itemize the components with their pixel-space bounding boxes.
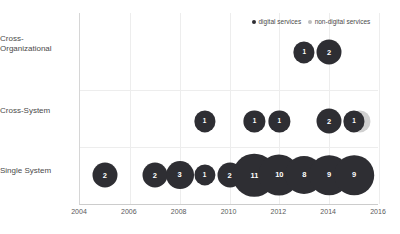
- bubble-digital-2014: 2: [317, 40, 342, 65]
- category-label-single-system: Single System: [0, 166, 78, 176]
- legend-label-nondigital: non-digital services: [315, 18, 371, 25]
- x-tick-2006: 2006: [121, 208, 137, 215]
- x-tick-2004: 2004: [71, 208, 87, 215]
- x-tick-2012: 2012: [271, 208, 287, 215]
- bubble-digital-2005: 2: [92, 163, 117, 188]
- category-label-cross-organizational: Cross- Organizational: [0, 34, 78, 54]
- legend: digital services non-digital services: [252, 18, 370, 25]
- x-tick-2014: 2014: [320, 208, 336, 215]
- plot-area: 111211121223121110899: [79, 13, 378, 205]
- x-tick-2016: 2016: [370, 208, 386, 215]
- category-label-cross-system: Cross-System: [0, 106, 78, 116]
- legend-item-nondigital: non-digital services: [308, 18, 370, 25]
- bubble-chart: 111211121223121110899 Cross- Organizatio…: [0, 0, 400, 234]
- bubble-digital-2015: 9: [334, 155, 374, 195]
- vertical-gridline: [379, 13, 380, 204]
- bubble-digital-2007: 2: [142, 163, 167, 188]
- horizontal-gridline: [80, 147, 378, 148]
- x-tick-2010: 2010: [221, 208, 237, 215]
- horizontal-gridline: [80, 90, 378, 91]
- legend-item-digital: digital services: [252, 18, 301, 25]
- legend-swatch-digital-icon: [252, 20, 256, 24]
- bubble-digital-2008: 3: [166, 161, 194, 189]
- legend-label-digital: digital services: [259, 18, 302, 25]
- x-tick-2008: 2008: [171, 208, 187, 215]
- bubble-digital-2014: 2: [317, 109, 342, 134]
- vertical-gridline: [130, 13, 131, 204]
- legend-swatch-nondigital-icon: [308, 20, 312, 24]
